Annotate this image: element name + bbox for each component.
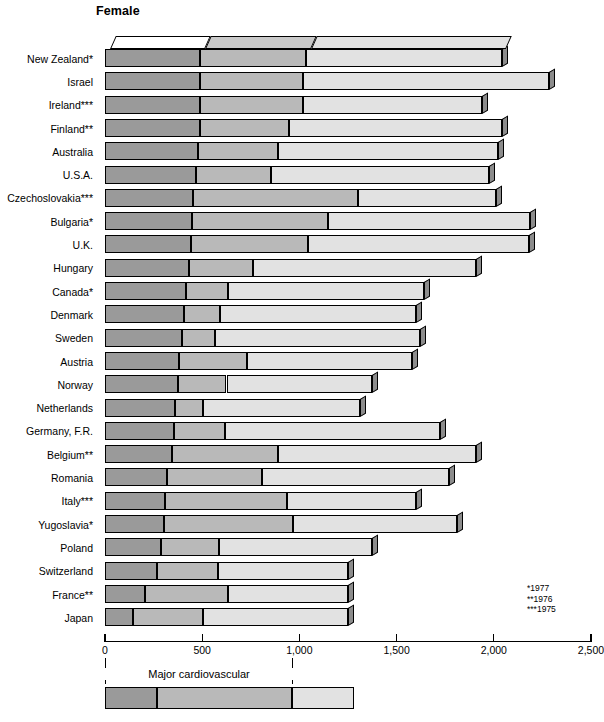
bar-row: Ireland*** xyxy=(0,94,595,117)
bar-segment-2 xyxy=(200,96,303,114)
x-axis-tick-label: 1,000 xyxy=(286,644,312,656)
bar-segment-2 xyxy=(161,538,218,556)
bar-row-label: Germany, F.R. xyxy=(26,425,93,437)
bar-segment-1 xyxy=(105,166,196,184)
bar-row: Switzerland xyxy=(0,560,595,583)
bar-row-label: Austria xyxy=(60,356,93,368)
x-axis-tick xyxy=(396,634,397,642)
bar-row: Bulgaria* xyxy=(0,210,595,233)
bar-3d-cap xyxy=(416,302,422,323)
bar-segment-3 xyxy=(218,562,348,580)
legend-bracket: Major cardiovascular xyxy=(105,658,293,684)
bar-row-label: Belgium** xyxy=(47,449,93,461)
x-axis-tick xyxy=(202,634,203,642)
bar-row: U.K. xyxy=(0,233,595,256)
bar-3d-cap xyxy=(420,325,426,346)
bar-segment-2 xyxy=(200,49,306,67)
bar-segment-2 xyxy=(196,166,271,184)
bar-3d-cap xyxy=(476,255,482,276)
bar-segment-1 xyxy=(105,49,200,67)
bar-segment-3 xyxy=(303,96,482,114)
bar-segment-1 xyxy=(105,538,161,556)
bar-segment-3 xyxy=(287,492,416,510)
bar-row: U.S.A. xyxy=(0,164,595,187)
bar-segment-2 xyxy=(189,259,253,277)
bar-row: Australia xyxy=(0,140,595,163)
bar-row-label: Canada* xyxy=(52,286,93,298)
bar-segment-2 xyxy=(178,375,227,393)
x-axis-tick xyxy=(590,634,591,642)
bar-row-label: Poland xyxy=(60,542,93,554)
bar-row: Canada* xyxy=(0,280,595,303)
bar-row: Poland xyxy=(0,536,595,559)
bar-segment-1 xyxy=(105,515,164,533)
bar-segment-3 xyxy=(289,119,502,137)
bar-3d-cap xyxy=(498,139,504,160)
bar-segment-1 xyxy=(105,562,157,580)
bar-3d-topface-1 xyxy=(110,36,211,49)
bar-3d-cap xyxy=(372,535,378,556)
footnote-1977: *1977 xyxy=(527,583,556,594)
bar-row: Czechoslovakia*** xyxy=(0,187,595,210)
bar-segment-1 xyxy=(105,282,186,300)
bar-row-label: Italy*** xyxy=(61,495,93,507)
bar-row: Italy*** xyxy=(0,490,595,513)
bar-segment-3 xyxy=(253,259,477,277)
bar-segment-2 xyxy=(200,119,288,137)
bar-segment-2 xyxy=(192,212,328,230)
bar-segment-1 xyxy=(105,422,174,440)
bar-row: Romania xyxy=(0,466,595,489)
bar-segment-2 xyxy=(157,562,218,580)
bar-segment-1 xyxy=(105,72,200,90)
bar-row: New Zealand* xyxy=(0,47,595,70)
bar-segment-2 xyxy=(145,585,229,603)
bar-row-label: Finland** xyxy=(50,123,93,135)
bar-segment-1 xyxy=(105,468,167,486)
bar-row-label: Sweden xyxy=(55,332,93,344)
bar-segment-2 xyxy=(174,422,225,440)
bar-3d-cap xyxy=(348,558,354,579)
bar-segment-2 xyxy=(179,352,247,370)
bar-row: Israel xyxy=(0,70,595,93)
bar-segment-3 xyxy=(308,235,529,253)
bar-3d-cap xyxy=(489,162,495,183)
bar-row-label: Ireland*** xyxy=(49,99,93,111)
bar-segment-3 xyxy=(215,329,420,347)
bar-row: Denmark xyxy=(0,303,595,326)
bar-row-label: U.S.A. xyxy=(63,169,93,181)
bar-segment-1 xyxy=(105,189,193,207)
bar-segment-1 xyxy=(105,352,179,370)
bar-segment-1 xyxy=(105,445,172,463)
bar-segment-1 xyxy=(105,492,165,510)
bar-segment-1 xyxy=(105,119,200,137)
x-axis-tick xyxy=(299,634,300,642)
bar-row: Germany, F.R. xyxy=(0,420,595,443)
bar-segment-2 xyxy=(172,445,278,463)
bar-row-label: Denmark xyxy=(50,309,93,321)
bar-segment-3 xyxy=(358,189,496,207)
legend-swatches xyxy=(105,687,354,709)
x-axis-line xyxy=(105,641,591,642)
bar-segment-3 xyxy=(219,538,373,556)
bar-row-label: Japan xyxy=(64,612,93,624)
bar-segment-1 xyxy=(105,212,192,230)
x-axis-tick-label: 500 xyxy=(193,644,211,656)
bar-row: Finland** xyxy=(0,117,595,140)
bar-3d-cap xyxy=(476,442,482,463)
bar-segment-3 xyxy=(220,305,416,323)
bar-3d-topface-2 xyxy=(205,36,317,49)
bar-3d-cap xyxy=(348,581,354,602)
bar-segment-3 xyxy=(227,375,373,393)
bar-row-label: Netherlands xyxy=(36,402,93,414)
bar-row-label: France** xyxy=(52,589,93,601)
bar-segment-3 xyxy=(278,142,498,160)
footnotes: *1977 **1976 ***1975 xyxy=(527,583,556,615)
footnote-1976: **1976 xyxy=(527,594,556,605)
bar-row-label: Czechoslovakia*** xyxy=(7,192,93,204)
bar-segment-3 xyxy=(228,282,423,300)
bar-segment-1 xyxy=(105,96,200,114)
bar-segment-3 xyxy=(306,49,501,67)
bar-row-label: Hungary xyxy=(53,262,93,274)
bar-3d-cap xyxy=(496,185,502,206)
